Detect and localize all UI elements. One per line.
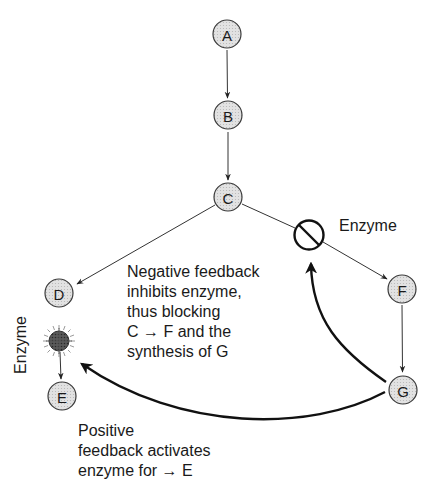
caption-line: enzyme for → E [78,462,193,479]
node-f-label: F [397,282,406,299]
activated-enzyme-icon [43,325,75,357]
arrow-a-to-b [227,50,228,98]
positive-feedback-arrow [82,364,385,419]
node-c-label: C [223,190,234,207]
caption-line: synthesis of G [127,343,228,360]
node-g-label: G [397,383,409,400]
feedback-pathway-diagram: A B C D E F G Enzyme [0,0,434,488]
node-e: E [48,382,76,410]
arrow-enzyme-to-f [323,242,387,279]
activated-enzyme-label: Enzyme [12,316,29,374]
caption-line: feedback activates [78,442,211,459]
pathway-arrows [60,50,403,379]
node-c: C [214,183,242,211]
caption-line: Positive [78,422,134,439]
node-d-label: D [54,286,65,303]
caption-line: C → F and the [127,323,231,340]
node-g: G [389,376,417,404]
line-c-to-enzyme [242,204,295,228]
caption-line: Negative feedback [127,263,261,280]
node-f: F [388,275,416,303]
node-d: D [45,279,73,307]
node-e-label: E [57,389,67,406]
positive-feedback-caption: Positive feedback activates enzyme for →… [78,422,211,479]
arrow-enzyme-to-e [60,352,61,379]
node-b-label: B [223,108,233,125]
node-b: B [214,101,242,129]
node-a: A [213,20,241,48]
inhibited-enzyme-label: Enzyme [339,217,397,234]
node-a-label: A [222,27,232,44]
arrow-f-to-g [402,305,403,372]
inhibited-enzyme-icon [295,221,324,250]
caption-line: thus blocking [127,303,220,320]
negative-feedback-arrow [311,264,386,382]
negative-feedback-caption: Negative feedback inhibits enzyme, thus … [127,263,261,360]
caption-line: inhibits enzyme, [127,283,242,300]
